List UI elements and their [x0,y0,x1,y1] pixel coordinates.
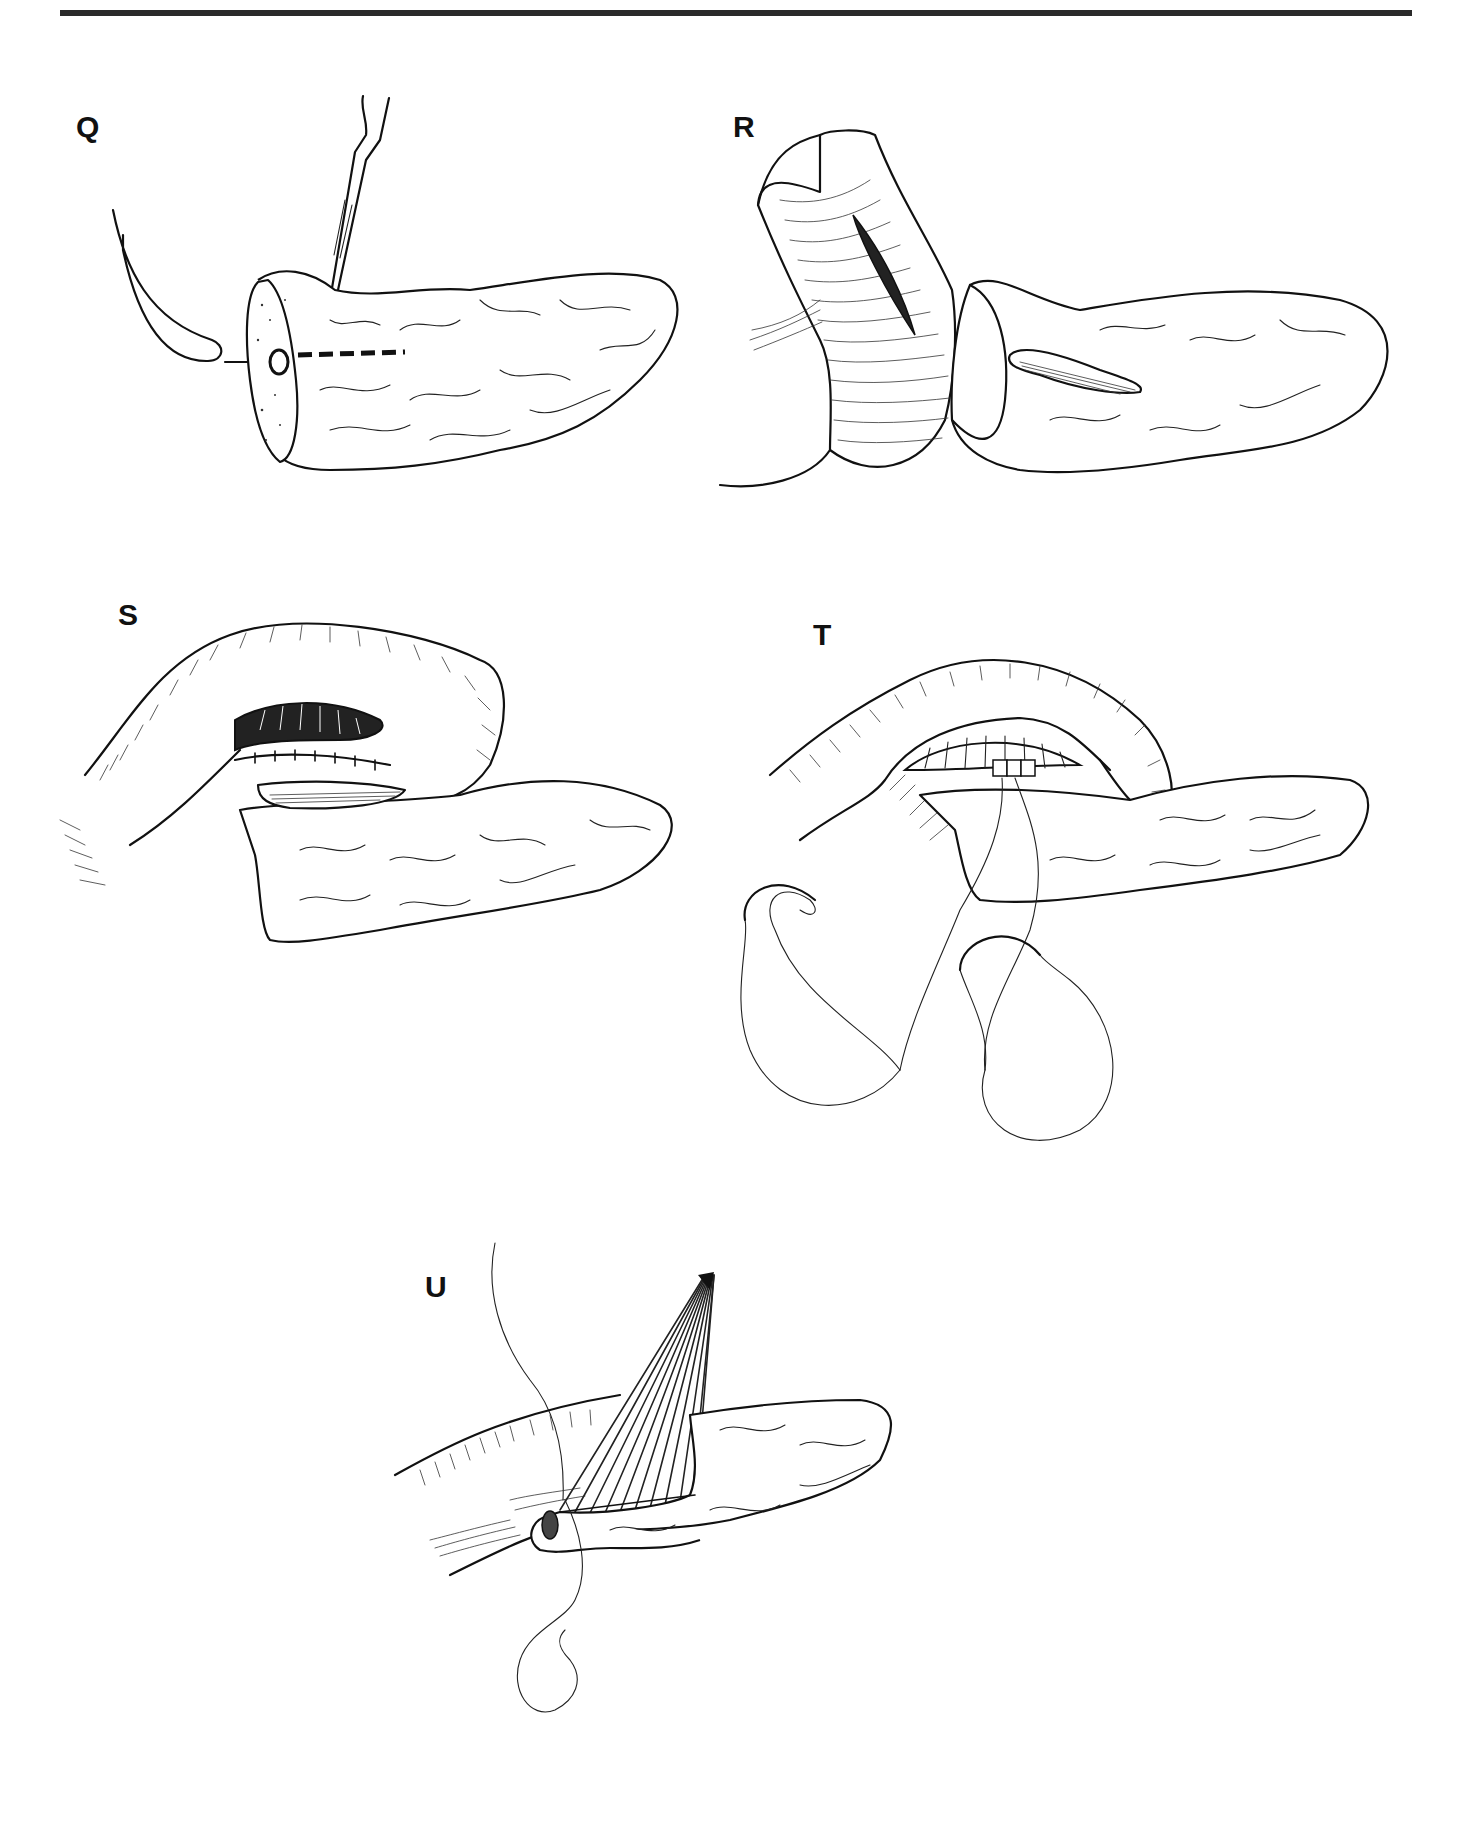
completed-anastomosis-illustration [380,1230,980,1730]
needle-right-icon [960,936,1040,970]
pancreas-catheter-scalpel-illustration [0,0,720,520]
anastomosis-needles-illustration [720,600,1463,1240]
panel-u: U [380,1230,980,1730]
panel-q: Q [0,0,720,520]
fanned-sutures [560,1275,714,1513]
posterior-suture-row-illustration [0,600,720,1020]
panel-s: S [0,600,720,1020]
needle-left-icon [770,892,900,1070]
jejunal-limb-incision-illustration [720,0,1463,520]
stump-knot-icon [542,1511,558,1539]
panel-r: R [720,0,1463,520]
jejunum-icon [758,130,955,466]
catheter-icon [113,210,221,361]
suture-thread-upper [492,1243,563,1500]
panel-t: T [720,600,1463,1240]
